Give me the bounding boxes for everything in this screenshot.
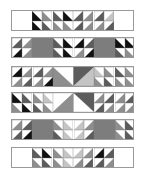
half-square-triangle bbox=[63, 130, 73, 140]
half-square-triangle bbox=[53, 120, 63, 130]
half-square-triangle bbox=[32, 21, 42, 31]
half-square-triangle bbox=[74, 48, 84, 58]
half-square-triangle bbox=[42, 21, 52, 31]
half-square-triangle bbox=[83, 158, 93, 168]
half-square-triangle bbox=[22, 130, 32, 140]
half-square-triangle bbox=[12, 77, 22, 87]
half-square-triangle bbox=[32, 11, 42, 21]
half-square-triangle bbox=[94, 148, 104, 158]
row-2 bbox=[11, 37, 134, 58]
solid-panel bbox=[32, 120, 53, 139]
triangle-strip bbox=[32, 11, 114, 30]
half-square-triangle bbox=[63, 48, 73, 58]
half-square-triangle bbox=[83, 11, 93, 21]
half-square-triangle bbox=[115, 48, 125, 58]
solid-panel bbox=[94, 38, 115, 57]
half-square-triangle bbox=[32, 158, 42, 168]
blank-block bbox=[115, 148, 134, 167]
blank-block bbox=[12, 11, 33, 30]
row-6 bbox=[11, 147, 134, 168]
half-square-triangle bbox=[84, 48, 94, 58]
half-square-triangle bbox=[125, 93, 134, 103]
half-square-triangle bbox=[73, 11, 83, 21]
triangle-strip bbox=[12, 38, 33, 57]
row-5 bbox=[11, 119, 134, 140]
half-square-triangle bbox=[94, 158, 104, 168]
half-square-triangle bbox=[53, 130, 63, 140]
half-square-triangle bbox=[94, 21, 104, 31]
half-square-triangle bbox=[53, 48, 63, 58]
triangle-strip bbox=[115, 38, 134, 57]
triangle-strip bbox=[12, 67, 53, 86]
half-square-triangle bbox=[42, 158, 52, 168]
row-4 bbox=[11, 92, 134, 113]
half-square-triangle bbox=[42, 148, 52, 158]
triangle-strip bbox=[32, 148, 114, 167]
half-square-triangle bbox=[125, 103, 134, 113]
half-square-triangle bbox=[115, 38, 125, 48]
half-square-triangle bbox=[125, 48, 134, 58]
half-square-triangle bbox=[43, 77, 53, 87]
half-square-triangle bbox=[83, 148, 93, 158]
half-square-triangle bbox=[94, 103, 104, 113]
half-square-triangle bbox=[115, 93, 125, 103]
half-square-triangle bbox=[94, 11, 104, 21]
solid-panel bbox=[94, 120, 115, 139]
half-square-triangle bbox=[43, 67, 53, 77]
half-square-triangle bbox=[73, 21, 83, 31]
half-square-triangle bbox=[125, 120, 134, 130]
half-square-triangle bbox=[22, 120, 32, 130]
half-square-triangle bbox=[22, 103, 32, 113]
half-square-triangle bbox=[84, 120, 94, 130]
half-square-triangle bbox=[12, 38, 22, 48]
half-square-triangle bbox=[63, 11, 73, 21]
half-square-triangle bbox=[12, 103, 22, 113]
half-square-triangle bbox=[33, 93, 43, 103]
half-square-triangle bbox=[104, 148, 114, 158]
half-square-triangle bbox=[22, 93, 32, 103]
half-square-triangle bbox=[74, 120, 84, 130]
half-square-triangle bbox=[12, 93, 22, 103]
half-square-triangle bbox=[22, 48, 32, 58]
triangle-strip bbox=[94, 93, 134, 112]
half-square-triangle bbox=[33, 103, 43, 113]
half-square-triangle bbox=[73, 148, 83, 158]
half-square-triangle bbox=[43, 103, 53, 113]
half-square-triangle bbox=[53, 148, 63, 158]
half-square-triangle bbox=[94, 77, 104, 87]
large-peak-triangles bbox=[53, 93, 94, 112]
half-square-triangle bbox=[53, 11, 63, 21]
half-square-triangle bbox=[63, 38, 73, 48]
half-square-triangle bbox=[63, 120, 73, 130]
half-square-triangle bbox=[115, 67, 125, 77]
half-square-triangle bbox=[63, 148, 73, 158]
half-square-triangle bbox=[84, 130, 94, 140]
half-square-triangle bbox=[94, 93, 104, 103]
half-square-triangle bbox=[22, 38, 32, 48]
half-square-triangle bbox=[63, 21, 73, 31]
half-square-triangle bbox=[22, 77, 32, 87]
half-square-triangle bbox=[125, 130, 134, 140]
half-square-triangle bbox=[43, 93, 53, 103]
half-square-triangle bbox=[115, 120, 125, 130]
half-square-triangle bbox=[94, 67, 104, 77]
triangle-strip bbox=[53, 120, 94, 139]
half-square-triangle bbox=[104, 21, 114, 31]
triangle-strip bbox=[94, 67, 134, 86]
half-square-triangle bbox=[53, 158, 63, 168]
half-square-triangle bbox=[104, 158, 114, 168]
half-square-triangle bbox=[63, 158, 73, 168]
half-square-triangle bbox=[115, 130, 125, 140]
half-square-triangle bbox=[12, 48, 22, 58]
half-square-triangle bbox=[33, 67, 43, 77]
half-square-triangle bbox=[104, 67, 114, 77]
half-square-triangle bbox=[12, 130, 22, 140]
triangle-strip bbox=[115, 120, 134, 139]
blank-block bbox=[115, 11, 134, 30]
half-square-triangle bbox=[42, 11, 52, 21]
triangle-strip bbox=[12, 93, 53, 112]
half-square-triangle bbox=[115, 77, 125, 87]
half-square-triangle bbox=[104, 93, 114, 103]
half-square-triangle bbox=[115, 103, 125, 113]
half-square-triangle bbox=[125, 77, 134, 87]
